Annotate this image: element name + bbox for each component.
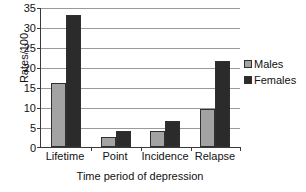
bar-group-point bbox=[91, 8, 141, 147]
bar-females-incidence bbox=[165, 121, 180, 147]
y-tick-label: 20 bbox=[24, 63, 36, 74]
bar-group-relapse bbox=[190, 8, 240, 147]
x-tick-label-relapse: Relapse bbox=[190, 150, 240, 162]
y-tick-mark bbox=[37, 147, 41, 148]
bar-group-lifetime bbox=[41, 8, 91, 147]
y-tick-label: 15 bbox=[24, 83, 36, 94]
bar-males-incidence bbox=[150, 131, 165, 147]
y-tick-label: 10 bbox=[24, 103, 36, 114]
bar-males-relapse bbox=[200, 109, 215, 147]
chart-legend: Males Females bbox=[244, 58, 296, 86]
y-tick-label: 35 bbox=[24, 3, 36, 14]
legend-item-females: Females bbox=[244, 74, 296, 86]
y-tick-label: 0 bbox=[30, 143, 36, 154]
x-axis-tick-labels: Lifetime Point Incidence Relapse bbox=[40, 150, 240, 162]
y-tick-label: 5 bbox=[30, 123, 36, 134]
legend-item-males: Males bbox=[244, 58, 296, 70]
x-tick-mark bbox=[240, 147, 241, 151]
y-axis-tick-labels: 0 5 10 15 20 25 30 35 bbox=[16, 8, 36, 148]
bar-males-lifetime bbox=[51, 83, 66, 147]
legend-label-males: Males bbox=[254, 58, 283, 70]
x-tick-label-lifetime: Lifetime bbox=[40, 150, 90, 162]
bar-females-lifetime bbox=[66, 15, 81, 147]
y-tick-label: 25 bbox=[24, 43, 36, 54]
bar-males-point bbox=[101, 137, 116, 147]
legend-swatch-icon-females bbox=[244, 76, 252, 84]
bar-females-relapse bbox=[215, 61, 230, 147]
y-tick-label: 30 bbox=[24, 23, 36, 34]
x-axis-title: Time period of depression bbox=[0, 170, 280, 182]
bar-chart-figure: Rates/100 0 5 10 15 20 25 30 35 bbox=[0, 0, 306, 192]
bar-females-point bbox=[116, 131, 131, 147]
bar-groups bbox=[41, 8, 240, 147]
legend-swatch-icon-males bbox=[244, 60, 252, 68]
plot-area bbox=[40, 8, 240, 148]
legend-label-females: Females bbox=[254, 74, 296, 86]
x-tick-label-point: Point bbox=[90, 150, 140, 162]
bar-group-incidence bbox=[141, 8, 191, 147]
x-tick-label-incidence: Incidence bbox=[140, 150, 190, 162]
